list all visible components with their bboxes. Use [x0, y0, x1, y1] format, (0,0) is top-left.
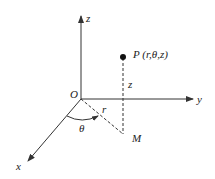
point-p-dot	[120, 54, 126, 60]
origin-label: O	[70, 88, 78, 100]
x-axis-label: x	[15, 160, 21, 172]
projection-m-label: M	[131, 132, 142, 144]
z-axis-label: z	[85, 12, 91, 24]
cylindrical-coordinates-diagram: z y x O P (r,θ,z) M r θ z	[0, 0, 215, 179]
radius-label: r	[102, 103, 107, 115]
point-p-label: P (r,θ,z)	[132, 48, 168, 61]
x-axis	[28, 99, 81, 161]
height-z-label: z	[127, 78, 133, 90]
theta-arc	[67, 116, 98, 120]
angle-theta-label: θ	[79, 122, 85, 134]
y-axis-label: y	[196, 93, 202, 105]
